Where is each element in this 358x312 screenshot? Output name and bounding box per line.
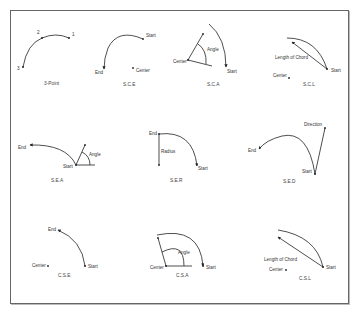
label-center: Center (173, 59, 187, 64)
caption-sea: S.E.A (51, 178, 64, 183)
label-angle: Angle (207, 47, 219, 52)
center-point (47, 265, 49, 267)
caption-ser: S.E.R (170, 178, 183, 183)
label-end: End (248, 148, 257, 153)
label-point-2: 2 (37, 30, 40, 35)
start-point (314, 173, 316, 175)
start-point (322, 266, 324, 268)
point-1 (68, 37, 70, 39)
label-center: Center (150, 265, 164, 270)
start-point (75, 164, 77, 166)
label-start: Start (302, 169, 312, 174)
label-radius: Radius (161, 149, 176, 154)
label-center: Center (273, 73, 287, 78)
label-end: End (48, 227, 57, 232)
arc-methods-diagram: 1 2 3 3-Point Start End Center S.C.E Ang… (0, 0, 358, 312)
caption-csl: C.S.L (299, 276, 311, 281)
caption-cse: C.S.E (58, 273, 71, 278)
start-point (202, 265, 204, 267)
caption-scl: S.C.L (303, 82, 315, 87)
label-center: Center (32, 263, 46, 268)
direction-point (324, 127, 326, 129)
label-end: End (18, 145, 27, 150)
label-start: Start (146, 33, 156, 38)
label-start: Start (227, 69, 237, 74)
caption-csa: C.S.A (176, 273, 189, 278)
end-point (84, 144, 86, 146)
label-point-1: 1 (72, 32, 75, 37)
label-chord: Length of Chord (275, 55, 308, 60)
end-point (157, 237, 159, 239)
label-end: End (95, 70, 104, 75)
center-point (288, 77, 290, 79)
center-point (187, 59, 189, 61)
label-start: Start (88, 264, 98, 269)
start-point (326, 68, 328, 70)
end-point (158, 133, 160, 135)
center-point (165, 265, 167, 267)
label-angle: Angle (178, 250, 190, 255)
label-center: Center (269, 267, 283, 272)
label-start: Start (326, 265, 336, 270)
center-point (158, 164, 160, 166)
caption-sed: S.E.D (283, 179, 296, 184)
start-point (84, 265, 86, 267)
caption-sce: S.C.E (123, 82, 136, 87)
end-point (202, 33, 204, 35)
caption-sca: S.C.A (207, 82, 220, 87)
label-chord: Length of Chord (264, 257, 297, 262)
label-start: Start (206, 265, 216, 270)
label-start: Start (63, 164, 73, 169)
start-point (142, 38, 144, 40)
label-start: Start (198, 166, 208, 171)
label-start: Start (331, 68, 341, 73)
label-angle: Angle (89, 152, 101, 157)
label-end: End (149, 131, 158, 136)
label-point-3: 3 (17, 66, 20, 71)
center-point (132, 67, 134, 69)
caption-3-point: 3-Point (44, 81, 60, 86)
point-2 (41, 37, 43, 39)
center-point (285, 269, 287, 271)
label-center: Center (136, 68, 150, 73)
point-3 (22, 66, 24, 68)
label-direction: Direction (304, 122, 323, 127)
